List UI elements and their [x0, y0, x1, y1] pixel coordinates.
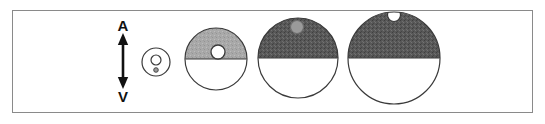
sphere-large-spot — [388, 9, 401, 22]
sphere-medium-spot — [291, 21, 304, 34]
axis-label-apical: A — [112, 18, 134, 33]
sphere-small-spot — [211, 45, 225, 59]
figure-container: A V — [0, 0, 545, 124]
sphere-smallest-spot — [151, 55, 161, 65]
sphere-large — [346, 9, 444, 109]
sphere-small — [180, 24, 252, 97]
axis-label-vegetal: V — [112, 89, 134, 104]
sphere-smallest — [142, 48, 170, 76]
figure-drawing — [0, 0, 545, 124]
vertical-double-headed-arrow-icon — [118, 33, 128, 89]
sphere-medium — [256, 16, 342, 102]
sphere-smallest-dot — [154, 68, 159, 73]
